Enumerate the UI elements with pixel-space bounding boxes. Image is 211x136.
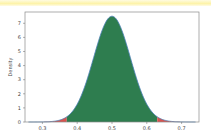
density-chart: 01234567 0.30.40.50.60.7 Density: [0, 0, 211, 136]
central-interval-fill: [67, 16, 157, 122]
y-tick-label: 7: [18, 20, 21, 26]
y-tick-label: 5: [18, 48, 21, 54]
y-tick-label: 1: [18, 105, 21, 111]
x-tick-label: 0.6: [143, 125, 151, 131]
y-tick-label: 4: [18, 62, 21, 68]
plot-area: [25, 16, 199, 122]
y-tick-label: 0: [18, 119, 21, 125]
y-axis-label: Density: [7, 57, 14, 76]
y-tick-label: 2: [18, 91, 21, 97]
x-axis: 0.30.40.50.60.7: [38, 122, 185, 131]
x-tick-label: 0.3: [38, 125, 46, 131]
y-tick-label: 3: [18, 76, 21, 82]
lower-tail-fill: [25, 117, 67, 122]
x-tick-label: 0.5: [108, 125, 116, 131]
y-axis: 01234567: [18, 20, 25, 125]
upper-tail-fill: [157, 117, 199, 122]
y-tick-label: 6: [18, 34, 21, 40]
x-tick-label: 0.7: [178, 125, 186, 131]
x-tick-label: 0.4: [73, 125, 81, 131]
